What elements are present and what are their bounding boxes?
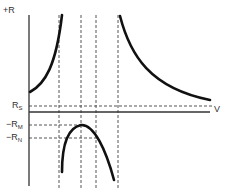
rs-label-sub: S	[19, 105, 23, 111]
rn-label-sub: N	[18, 137, 22, 143]
rm-label-main: −R	[6, 119, 18, 129]
left-branch-curve	[30, 15, 62, 92]
rs-label-main: R	[12, 100, 19, 110]
right-branch-curve	[120, 16, 210, 100]
axes	[29, 15, 210, 186]
rm-label: −RM	[6, 120, 23, 130]
rn-label: −RN	[6, 133, 22, 143]
lower-branch-curve	[62, 125, 114, 180]
y-axis-label: +R	[3, 6, 15, 15]
dashed-guides	[29, 15, 212, 190]
rn-label-main: −R	[6, 132, 18, 142]
x-axis-label: V	[214, 105, 220, 114]
diagram-canvas	[0, 0, 225, 193]
curves	[30, 15, 210, 180]
rs-label: RS	[12, 101, 23, 111]
resistance-voltage-diagram: +R V RS −RM −RN	[0, 0, 225, 193]
rm-label-sub: M	[18, 124, 23, 130]
